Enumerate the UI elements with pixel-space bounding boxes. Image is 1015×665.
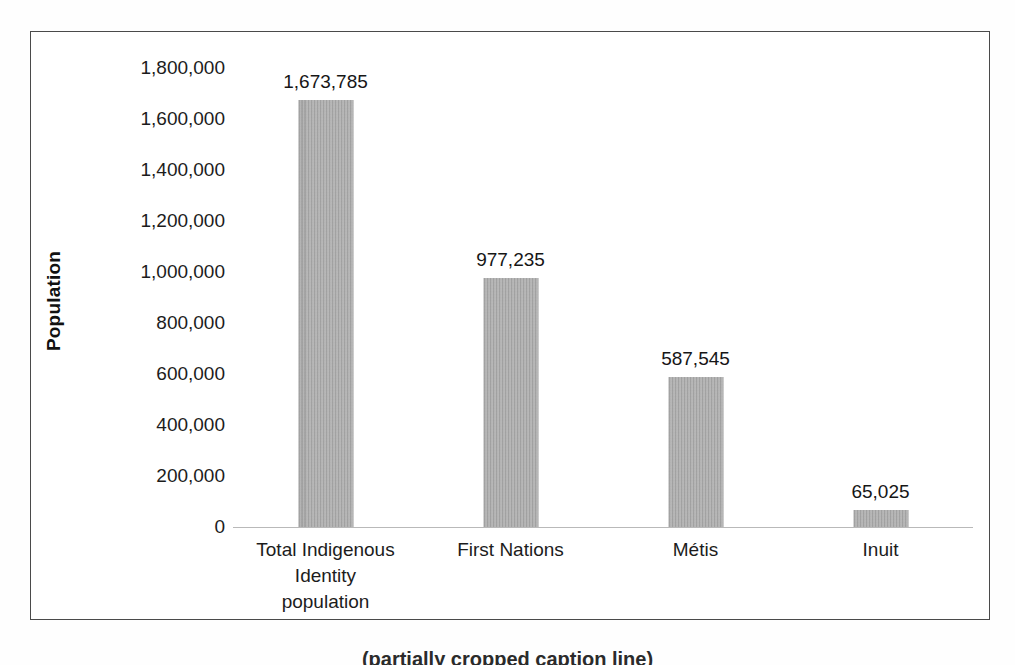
- scanned-page: Population 1,800,0001,600,0001,400,0001,…: [0, 0, 1015, 665]
- chart-frame: [30, 31, 990, 620]
- figure-caption: (partially cropped caption line): [0, 648, 1015, 665]
- figure-caption-clipped: (partially cropped caption line): [0, 648, 1015, 665]
